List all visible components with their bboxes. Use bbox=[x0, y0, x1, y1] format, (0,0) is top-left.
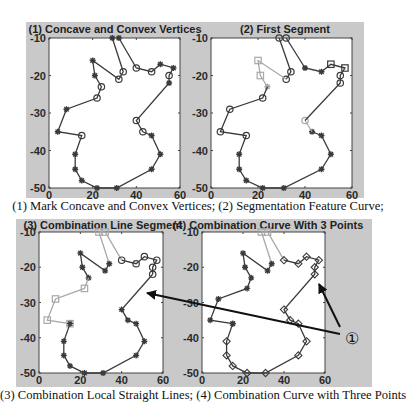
subplot-3: (3) Combination Line Segment0204060-10-2… bbox=[20, 219, 183, 386]
star-marker bbox=[125, 317, 131, 323]
star-marker bbox=[141, 338, 147, 344]
star-marker bbox=[72, 151, 78, 157]
star-marker bbox=[67, 363, 73, 369]
y-tick-label: -10 bbox=[183, 226, 199, 238]
star-marker bbox=[318, 133, 324, 139]
y-tick-label: -50 bbox=[183, 367, 199, 379]
star-marker bbox=[240, 250, 246, 256]
star-marker bbox=[242, 264, 248, 270]
star-marker bbox=[236, 166, 242, 172]
star-marker bbox=[215, 296, 221, 302]
star-marker bbox=[109, 35, 115, 41]
subplot-title: (2) First Segment bbox=[240, 23, 330, 35]
star-marker bbox=[166, 80, 172, 86]
x-tick-label: 40 bbox=[278, 374, 290, 386]
y-tick-label: -20 bbox=[20, 261, 36, 273]
y-tick-label: -40 bbox=[192, 145, 208, 157]
y-tick-label: -20 bbox=[30, 70, 46, 82]
star-marker bbox=[243, 178, 249, 184]
plot-area bbox=[49, 38, 180, 188]
star-marker bbox=[79, 178, 85, 184]
star-marker bbox=[77, 250, 83, 256]
y-tick-label: -10 bbox=[20, 226, 36, 238]
x-tick-label: 0 bbox=[46, 189, 52, 201]
star-marker bbox=[92, 73, 98, 79]
star-marker bbox=[230, 321, 236, 327]
star-marker bbox=[55, 129, 61, 135]
y-tick-label: -10 bbox=[192, 32, 208, 44]
x-tick-label: 0 bbox=[208, 189, 214, 201]
y-tick-label: -30 bbox=[192, 107, 208, 119]
y-tick-label: -50 bbox=[20, 367, 36, 379]
y-tick-label: -40 bbox=[30, 145, 46, 157]
star-marker bbox=[248, 275, 254, 281]
star-marker bbox=[170, 65, 176, 71]
x-tick-label: 60 bbox=[157, 374, 169, 386]
star-marker bbox=[281, 185, 287, 191]
star-marker bbox=[157, 151, 163, 157]
star-marker bbox=[116, 35, 122, 41]
star-marker bbox=[90, 58, 96, 64]
y-tick-label: -50 bbox=[192, 182, 208, 194]
star-marker bbox=[244, 285, 250, 291]
x-tick-label: 60 bbox=[319, 374, 331, 386]
star-marker bbox=[133, 352, 139, 358]
star-marker bbox=[157, 61, 163, 67]
x-tick-label: 0 bbox=[36, 374, 42, 386]
x-tick-label: 60 bbox=[346, 189, 358, 201]
y-tick-label: -40 bbox=[20, 332, 36, 344]
x-tick-label: 40 bbox=[299, 189, 311, 201]
star-marker bbox=[63, 106, 69, 112]
star-marker bbox=[100, 370, 106, 376]
y-tick-label: -30 bbox=[30, 107, 46, 119]
star-marker bbox=[318, 166, 324, 172]
subplot-title: (1) Concave and Convex Vertices bbox=[28, 23, 201, 35]
star-marker bbox=[265, 268, 271, 274]
star-marker bbox=[61, 352, 67, 358]
star-marker bbox=[149, 133, 155, 139]
x-tick-label: 60 bbox=[174, 189, 186, 201]
star-marker bbox=[260, 185, 266, 191]
y-tick-label: -10 bbox=[30, 32, 46, 44]
star-marker bbox=[269, 261, 275, 267]
star-marker bbox=[106, 261, 112, 267]
y-tick-label: -50 bbox=[30, 182, 46, 194]
x-tick-label: 0 bbox=[199, 374, 205, 386]
callout-label: ① bbox=[345, 330, 359, 347]
star-marker bbox=[207, 317, 213, 323]
y-tick-label: -30 bbox=[20, 297, 36, 309]
star-marker bbox=[79, 264, 85, 270]
star-marker bbox=[102, 268, 108, 274]
star-marker bbox=[302, 65, 308, 71]
star-marker bbox=[236, 151, 242, 157]
star-marker bbox=[149, 166, 155, 172]
y-tick-label: -40 bbox=[183, 332, 199, 344]
subplot-1: (1) Concave and Convex Vertices0204060-1… bbox=[28, 23, 201, 201]
star-marker bbox=[119, 307, 125, 313]
star-marker bbox=[72, 166, 78, 172]
x-tick-label: 40 bbox=[116, 374, 128, 386]
subplot-2: (2) First Segment0204060-10-20-30-40-50 bbox=[192, 23, 358, 201]
star-marker bbox=[133, 321, 139, 327]
star-marker bbox=[81, 370, 87, 376]
star-marker bbox=[61, 338, 67, 344]
subplot-4: (4) Combination Curve With 3 Points02040… bbox=[173, 219, 364, 386]
star-marker bbox=[94, 185, 100, 191]
y-tick-label: -20 bbox=[183, 261, 199, 273]
x-tick-label: 40 bbox=[130, 189, 142, 201]
y-tick-label: -20 bbox=[192, 70, 208, 82]
star-marker bbox=[328, 151, 334, 157]
star-marker bbox=[67, 321, 73, 327]
star-marker bbox=[114, 185, 120, 191]
